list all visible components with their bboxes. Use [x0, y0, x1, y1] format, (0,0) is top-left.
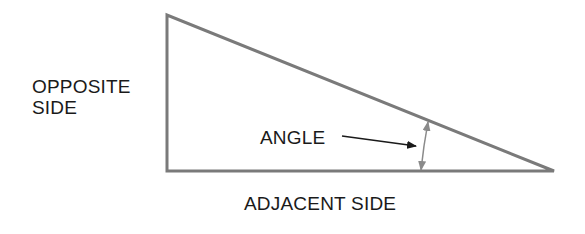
opposite-side-label-line1: OPPOSITE: [32, 76, 131, 97]
angle-pointer-arrow: [342, 136, 416, 146]
adjacent-side-label: ADJACENT SIDE: [244, 193, 396, 214]
angle-label: ANGLE: [260, 127, 325, 148]
opposite-side-label: OPPOSITE SIDE: [32, 76, 131, 118]
angle-measure-arrow-down: [421, 146, 424, 170]
triangle-outline: [167, 15, 554, 171]
angle-measure-arrow-up: [424, 122, 428, 146]
opposite-side-label-line2: SIDE: [32, 97, 131, 118]
